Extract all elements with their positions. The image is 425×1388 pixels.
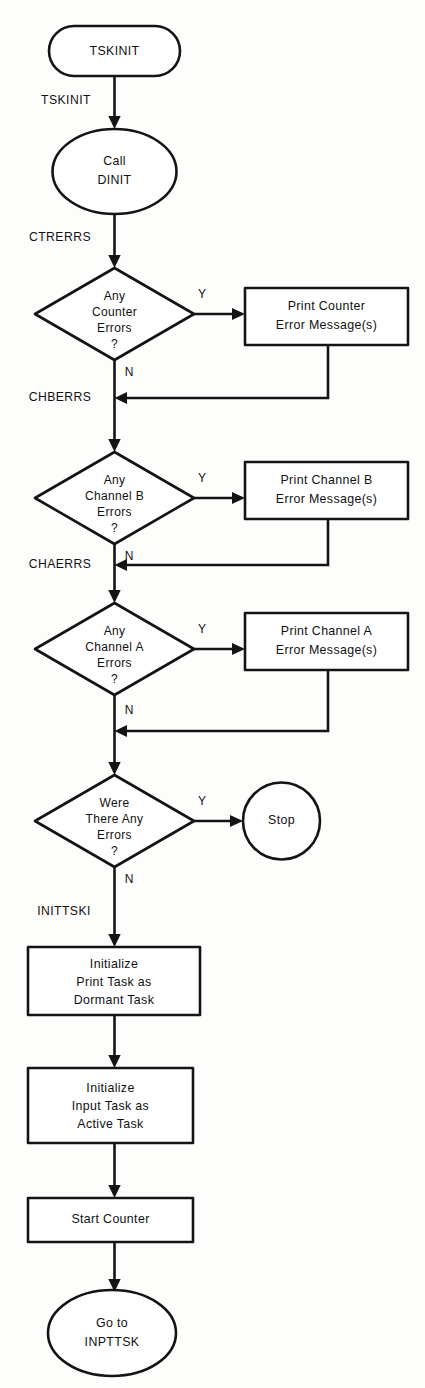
branch-label-counter-no: N [125,365,134,379]
connector-start-counter-to-goto [108,1242,120,1292]
arrow-right-icon [232,643,245,655]
arrow-right-icon [232,492,245,504]
arrow-left-icon [115,725,128,737]
init-print-task-line1: Initialize [90,957,138,971]
arrow-down-icon [108,1055,120,1068]
connector-input-task-to-start-counter [108,1143,120,1198]
arrow-down-icon [108,439,120,452]
init-input-task-line1: Initialize [86,1081,134,1095]
branch-label-counter-yes: Y [198,287,206,301]
start-label: TSKINIT [90,44,140,58]
flowchart-diagram: TSKINIT TSKINIT Call DINIT CTRERRS Any C… [0,0,425,1388]
connector-channel-b-yes: Y [194,471,245,504]
connector-dinit-to-counter-decision: CTRERRS [29,214,121,268]
print-counter-line1: Print Counter [288,299,366,313]
node-decision-any-errors[interactable]: Were There Any Errors ? [35,775,194,867]
decision-counter-line3: Errors [97,321,132,335]
goto-inpttsk-line2: INPTTSK [85,1335,140,1349]
node-decision-counter-errors[interactable]: Any Counter Errors ? [35,268,194,360]
arrow-down-icon [108,934,120,947]
node-goto-inpttsk[interactable]: Go to INPTTSK [48,1290,176,1376]
node-start-tskinit[interactable]: TSKINIT [49,26,180,76]
edge-label-ctrerrs: CTRERRS [29,230,91,244]
goto-inpttsk-shape [48,1290,176,1376]
init-print-task-line3: Dormant Task [74,993,155,1007]
print-counter-shape [245,288,408,345]
call-dinit-label-line2: DINIT [97,173,131,187]
branch-label-any-errors-yes: Y [198,794,206,808]
call-dinit-shape [53,129,177,214]
node-stop[interactable]: Stop [243,783,320,860]
node-print-channel-b-errors[interactable]: Print Channel B Error Message(s) [245,462,408,519]
edge-label-tskinit: TSKINIT [41,93,91,107]
arrow-down-icon [108,255,120,268]
decision-channel-a-line3: Errors [97,656,132,670]
print-channel-b-line2: Error Message(s) [276,492,377,506]
branch-label-channel-a-no: N [125,703,134,717]
print-channel-b-line1: Print Channel B [280,473,372,487]
node-decision-channel-a-errors[interactable]: Any Channel A Errors ? [35,603,194,695]
connector-print-channel-a-return [115,670,329,737]
print-channel-b-shape [245,462,408,519]
connector-channel-b-no: N CHAERRS [29,544,134,603]
arrow-left-icon [115,392,128,404]
print-counter-line2: Error Message(s) [276,318,377,332]
goto-inpttsk-line1: Go to [96,1316,128,1330]
edge-label-chaerrs: CHAERRS [29,557,92,571]
node-print-channel-a-errors[interactable]: Print Channel A Error Message(s) [245,613,408,670]
decision-channel-a-line4: ? [111,672,118,686]
decision-channel-b-line3: Errors [97,505,132,519]
edge-label-inittski: INITTSKI [37,904,91,918]
print-channel-a-line1: Print Channel A [281,624,373,638]
connector-counter-no: N CHBERRS [29,360,134,452]
decision-channel-a-line1: Any [104,624,126,638]
decision-any-errors-line4: ? [111,844,118,858]
connector-channel-a-yes: Y [194,622,245,655]
branch-label-channel-b-no: N [125,549,134,563]
arrow-right-icon [230,815,243,827]
stop-label: Stop [268,813,295,827]
node-init-print-task[interactable]: Initialize Print Task as Dormant Task [28,947,200,1015]
start-counter-label: Start Counter [71,1212,149,1226]
arrow-down-icon [108,116,120,129]
edge-label-chberrs: CHBERRS [29,390,92,404]
decision-counter-line4: ? [111,337,118,351]
branch-label-channel-b-yes: Y [198,471,206,485]
init-input-task-line3: Active Task [77,1117,144,1131]
node-init-input-task[interactable]: Initialize Input Task as Active Task [28,1068,193,1143]
init-print-task-line2: Print Task as [76,975,151,989]
decision-any-errors-line1: Were [100,796,130,810]
connector-any-errors-yes: Y [194,794,243,827]
connector-channel-a-no: N [108,695,133,775]
arrow-right-icon [232,308,245,320]
branch-label-any-errors-no: N [125,872,134,886]
connector-any-errors-no: N INITTSKI [37,867,133,947]
decision-channel-b-line4: ? [111,521,118,535]
connector-counter-yes: Y [194,287,245,320]
connector-print-task-to-input-task [108,1015,120,1068]
call-dinit-label-line1: Call [103,154,126,168]
init-input-task-line2: Input Task as [72,1099,149,1113]
node-decision-channel-b-errors[interactable]: Any Channel B Errors ? [35,452,194,544]
print-channel-a-line2: Error Message(s) [276,643,377,657]
decision-counter-line1: Any [104,289,126,303]
node-start-counter[interactable]: Start Counter [28,1198,193,1242]
node-print-counter-errors[interactable]: Print Counter Error Message(s) [245,288,408,345]
connector-start-to-dinit: TSKINIT [41,76,121,129]
arrow-down-icon [108,1185,120,1198]
decision-any-errors-line2: There Any [86,812,144,826]
decision-channel-b-line2: Channel B [85,489,144,503]
print-channel-a-shape [245,613,408,670]
decision-channel-a-line2: Channel A [85,640,144,654]
node-call-dinit[interactable]: Call DINIT [53,129,177,214]
arrow-down-icon [108,590,120,603]
flowchart-canvas: TSKINIT TSKINIT Call DINIT CTRERRS Any C… [0,0,425,1388]
decision-channel-b-line1: Any [104,473,126,487]
decision-any-errors-line3: Errors [97,828,132,842]
connector-print-counter-return [115,345,329,404]
decision-counter-line2: Counter [92,305,137,319]
arrow-down-icon [108,762,120,775]
branch-label-channel-a-yes: Y [198,622,206,636]
